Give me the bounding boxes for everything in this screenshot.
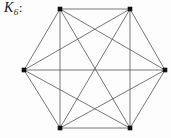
complete-graph-k6-diagram — [0, 0, 171, 138]
graph-figure: K6: — [0, 0, 171, 138]
graph-edge — [130, 9, 165, 70]
graph-edge — [130, 70, 165, 128]
graph-vertex — [22, 68, 27, 73]
graph-edge-layer — [24, 9, 165, 128]
graph-vertex — [58, 7, 63, 12]
graph-edge — [24, 9, 130, 70]
graph-edge — [24, 70, 60, 128]
graph-vertex-layer — [22, 7, 168, 131]
graph-vertex — [128, 126, 133, 131]
graph-vertex — [58, 126, 63, 131]
graph-edge — [60, 70, 165, 128]
graph-vertex — [163, 68, 168, 73]
graph-edge — [24, 9, 60, 70]
graph-edge — [24, 70, 130, 128]
graph-vertex — [128, 7, 133, 12]
